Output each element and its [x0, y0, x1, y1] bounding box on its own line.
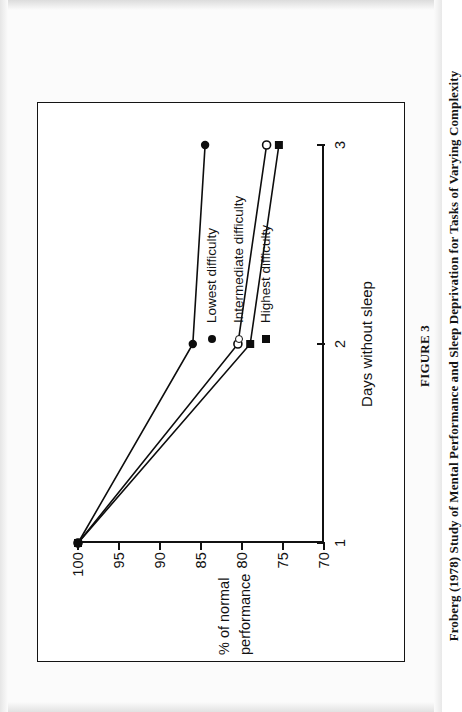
legend-item: Intermediate difficulty: [231, 196, 246, 347]
series-plot: [78, 145, 324, 543]
figure-caption-title: FIGURE 3: [417, 50, 433, 662]
y-tick-mark: [282, 542, 284, 550]
scan-edge-top: [0, 0, 442, 10]
filled-square-icon-glyph: [262, 335, 270, 343]
open-circle-icon: [232, 331, 246, 347]
y-tick-mark: [159, 542, 161, 550]
filled-circle-icon-glyph: [208, 335, 216, 343]
series-line: [78, 145, 205, 543]
scan-edge-bottom: [0, 702, 442, 712]
data-point-filled-circle-icon: [189, 340, 197, 348]
filled-square-icon: [259, 331, 273, 347]
x-tick-label: 2: [332, 340, 348, 348]
x-tick-label: 1: [332, 539, 348, 547]
figure-caption-text: Froberg (1978) Study of Mental Performan…: [446, 50, 462, 662]
y-tick-label: 75: [275, 552, 291, 569]
open-circle-icon-glyph: [235, 335, 243, 343]
y-tick-label: 90: [152, 552, 168, 569]
y-tick-mark: [200, 542, 202, 550]
data-point-filled-circle-icon: [201, 141, 209, 149]
rotated-figure-page: % of normal performance Days without sle…: [21, 26, 421, 686]
filled-circle-icon: [205, 331, 219, 347]
y-tick-label: 95: [111, 552, 127, 569]
plot-area: 707580859095100 123 Lowest difficultyInt…: [78, 145, 324, 543]
legend-item-label: Intermediate difficulty: [231, 196, 246, 323]
legend: Lowest difficultyIntermediate difficulty…: [204, 196, 285, 347]
y-tick-label: 80: [234, 552, 250, 569]
y-tick-label: 70: [316, 552, 332, 569]
figure-caption-block: FIGURE 3 Froberg (1978) Study of Mental …: [417, 50, 462, 662]
y-tick-mark: [241, 542, 243, 550]
data-point-filled-square-icon: [275, 141, 283, 149]
legend-item: Highest difficulty: [258, 196, 273, 347]
legend-item: Lowest difficulty: [204, 196, 219, 347]
y-axis-title-line1: % of normal: [214, 543, 235, 655]
x-tick-label: 3: [332, 141, 348, 149]
legend-item-label: Lowest difficulty: [204, 228, 219, 323]
legend-item-label: Highest difficulty: [258, 225, 273, 323]
y-tick-mark: [118, 542, 120, 550]
scan-edge-left: [0, 0, 8, 712]
data-point-open-circle-icon: [263, 141, 271, 149]
x-axis-title: Days without sleep: [358, 145, 375, 543]
figure-border-frame: % of normal performance Days without sle…: [37, 102, 405, 662]
data-point-filled-square-icon: [74, 539, 82, 547]
y-tick-label: 85: [193, 552, 209, 569]
y-tick-label: 100: [70, 552, 86, 577]
